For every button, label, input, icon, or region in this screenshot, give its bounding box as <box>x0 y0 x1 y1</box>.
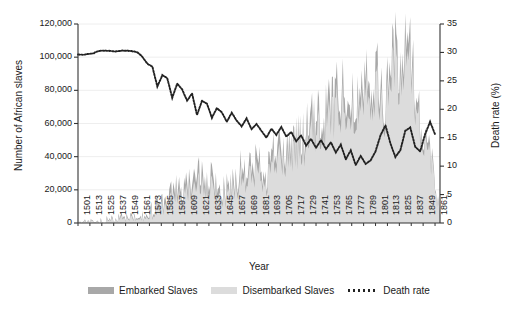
x-tick-8: 1597 <box>177 195 187 227</box>
legend-label-0: Embarked Slaves <box>119 285 197 296</box>
x-tick-5: 1561 <box>142 195 152 227</box>
x-tick-30: 1861 <box>439 195 449 227</box>
chart-figure: Number of African slaves Death rate (%) … <box>0 0 519 310</box>
y-tick-right-4: 20 <box>447 103 477 113</box>
x-tick-3: 1537 <box>118 195 128 227</box>
x-tick-6: 1573 <box>153 195 163 227</box>
x-tick-18: 1717 <box>296 195 306 227</box>
legend-item-2[interactable]: Death rate <box>348 285 430 296</box>
y-tick-right-6: 30 <box>447 46 477 56</box>
legend-item-1[interactable]: Disembarked Slaves <box>211 285 334 296</box>
x-tick-2: 1525 <box>106 195 116 227</box>
y-tick-left-0: 0 <box>16 217 72 227</box>
x-tick-20: 1741 <box>320 195 330 227</box>
x-tick-4: 1549 <box>130 195 140 227</box>
legend-swatch-1 <box>211 287 237 294</box>
y-tick-left-1: 20,000 <box>16 184 72 194</box>
x-tick-19: 1729 <box>308 195 318 227</box>
x-tick-14: 1669 <box>249 195 259 227</box>
legend-item-0[interactable]: Embarked Slaves <box>88 285 197 296</box>
x-tick-28: 1837 <box>415 195 425 227</box>
x-tick-9: 1609 <box>189 195 199 227</box>
x-tick-11: 1633 <box>213 195 223 227</box>
x-axis-title: Year <box>78 261 440 272</box>
x-tick-23: 1777 <box>356 195 366 227</box>
x-tick-25: 1801 <box>380 195 390 227</box>
y-tick-right-1: 5 <box>447 189 477 199</box>
x-tick-10: 1621 <box>201 195 211 227</box>
y-tick-left-3: 60,000 <box>16 118 72 128</box>
x-tick-21: 1753 <box>332 195 342 227</box>
x-tick-24: 1789 <box>368 195 378 227</box>
x-tick-12: 1645 <box>225 195 235 227</box>
x-tick-0: 1501 <box>82 195 92 227</box>
legend-swatch-0 <box>88 287 114 294</box>
chart-legend: Embarked SlavesDisembarked SlavesDeath r… <box>78 282 440 298</box>
legend-label-1: Disembarked Slaves <box>242 285 334 296</box>
x-tick-7: 1585 <box>165 195 175 227</box>
x-tick-27: 1825 <box>403 195 413 227</box>
x-tick-1: 1513 <box>94 195 104 227</box>
x-tick-22: 1765 <box>344 195 354 227</box>
x-tick-17: 1705 <box>284 195 294 227</box>
x-tick-29: 1849 <box>427 195 437 227</box>
y-tick-left-6: 120,000 <box>16 18 72 28</box>
y-tick-left-2: 40,000 <box>16 151 72 161</box>
legend-label-2: Death rate <box>383 285 430 296</box>
x-tick-26: 1813 <box>391 195 401 227</box>
y-tick-left-4: 80,000 <box>16 84 72 94</box>
x-tick-13: 1657 <box>237 195 247 227</box>
x-tick-15: 1681 <box>261 195 271 227</box>
y-axis-right-title: Death rate (%) <box>490 46 501 186</box>
y-axis-left-title: Number of African slaves <box>13 46 24 186</box>
y-tick-right-7: 35 <box>447 18 477 28</box>
y-tick-right-5: 25 <box>447 75 477 85</box>
x-tick-16: 1693 <box>272 195 282 227</box>
y-tick-right-2: 10 <box>447 160 477 170</box>
legend-swatch-death-rate <box>348 289 378 292</box>
y-tick-left-5: 100,000 <box>16 51 72 61</box>
y-tick-right-3: 15 <box>447 132 477 142</box>
y-tick-right-0: 0 <box>447 217 477 227</box>
